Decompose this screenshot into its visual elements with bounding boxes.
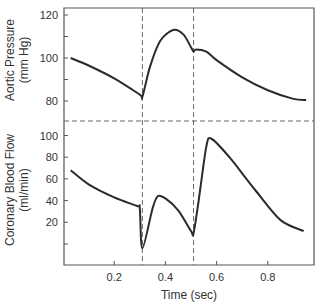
y-tick-label: 80 [46, 95, 58, 107]
axis-labels: Time (sec) Aortic Pressure(mm Hg)Coronar… [3, 19, 217, 302]
y-tick-label: 100 [40, 52, 58, 64]
y-tick-label: 80 [46, 151, 58, 163]
y-tick-label: 120 [40, 9, 58, 21]
x-tick-label: 0.2 [107, 271, 122, 283]
y-axis-title-coronary-flow: Coronary Blood Flow(ml/min) [3, 134, 31, 246]
svg-text:Aortic Pressure: Aortic Pressure [3, 19, 17, 101]
y-tick-label: 40 [46, 195, 58, 207]
svg-text:Coronary Blood Flow: Coronary Blood Flow [3, 134, 17, 246]
y-tick-label: 100 [40, 130, 58, 142]
svg-text:(mm Hg): (mm Hg) [17, 37, 31, 84]
y-axis-title-aortic-pressure: Aortic Pressure(mm Hg) [3, 19, 31, 101]
x-tick-label: 0.8 [260, 271, 275, 283]
svg-text:(ml/min): (ml/min) [17, 168, 31, 211]
data-curves [71, 30, 307, 248]
chart-canvas: 12010080100806040200.20.40.60.8 Time (se… [0, 0, 322, 305]
y-tick-label: 60 [46, 173, 58, 185]
x-axis-title: Time (sec) [161, 288, 217, 302]
x-tick-label: 0.6 [209, 271, 224, 283]
x-tick-label: 0.4 [158, 271, 173, 283]
axis-ticks: 12010080100806040200.20.40.60.8 [40, 9, 276, 283]
coronary-flow-curve [71, 138, 304, 248]
aortic-pressure-curve [71, 30, 307, 100]
y-tick-label: 20 [46, 216, 58, 228]
